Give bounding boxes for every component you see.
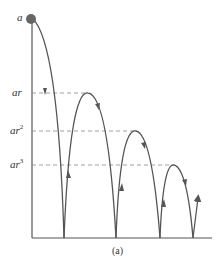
caption: (a): [112, 245, 123, 256]
arrow-down-icon: [43, 88, 47, 95]
final-rise: [193, 198, 198, 238]
label-ar3-exp: 3: [20, 157, 24, 165]
label-ar2-exp: 2: [20, 123, 24, 131]
label-ar3-base: ar: [10, 158, 20, 170]
arrow-down-icon: [182, 179, 187, 186]
bounce-1-curve: [64, 93, 116, 238]
ball: [26, 14, 36, 24]
bounce-2-curve: [116, 131, 160, 238]
fall-curve: [32, 18, 64, 238]
label-a: a: [17, 11, 23, 23]
label-ar2: ar2: [10, 123, 23, 136]
label-ar3: ar3: [10, 157, 23, 170]
label-ar: ar: [12, 86, 22, 98]
bounce-3-curve: [160, 165, 193, 238]
label-ar2-base: ar: [10, 124, 20, 136]
arrow-down-icon: [141, 142, 146, 149]
bouncing-ball-diagram: [0, 0, 218, 259]
